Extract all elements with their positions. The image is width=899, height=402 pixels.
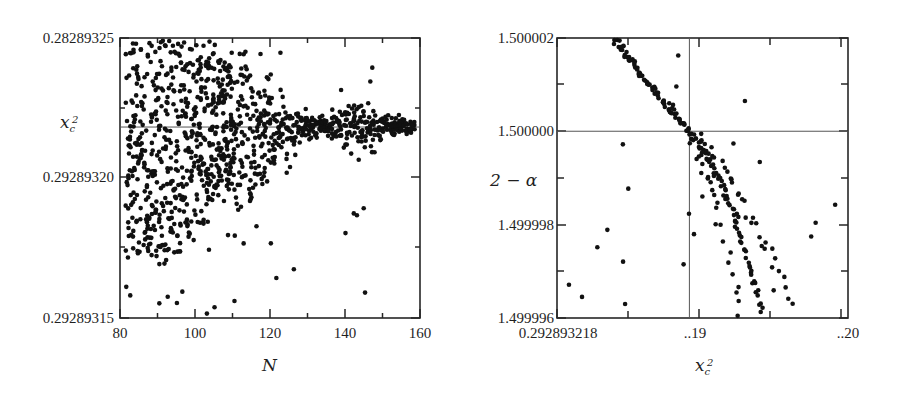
right-ytick-label-1: 1.500002 [470, 31, 554, 46]
left-ytick-label-top: 0.28289325 [18, 31, 114, 46]
left-y-axis-title-sup: 2 [72, 114, 78, 125]
left-xtick-label-80: 80 [100, 326, 140, 341]
scatter-panel-left: 0.28289325 0.29289320 0.29289315 xc2 80 … [0, 0, 449, 402]
left-plot-canvas [0, 0, 449, 402]
right-ytick-label-2: 1.500000 [470, 124, 554, 139]
left-y-axis-title: xc2 [60, 112, 78, 134]
right-xtick-label-1: 0.292893218 [498, 326, 618, 341]
right-plot-frame [557, 38, 848, 318]
right-xtick-label-2: ..19 [675, 326, 715, 341]
right-x-axis-title-base: x [695, 355, 705, 375]
right-scatter-points [567, 38, 838, 319]
left-xtick-label-160: 160 [400, 326, 440, 341]
right-y-axis-title: 2 − α [490, 170, 537, 190]
right-ytick-label-3: 1.499998 [470, 218, 554, 233]
figure-container: 0.28289325 0.29289320 0.29289315 xc2 80 … [0, 0, 899, 402]
right-x-axis-title-sup: 2 [707, 357, 713, 368]
left-scatter-points [123, 39, 416, 316]
right-plot-canvas [450, 0, 899, 402]
right-xtick-label-3: ..20 [828, 326, 868, 341]
left-y-axis-title-base: x [60, 112, 70, 132]
left-xtick-label-100: 100 [175, 326, 215, 341]
right-x-axis-title: xc2 [695, 355, 713, 377]
left-ytick-label-mid: 0.29289320 [18, 170, 114, 185]
left-x-axis-title: N [262, 355, 277, 375]
left-ytick-label-bottom: 0.29289315 [18, 311, 114, 326]
right-ytick-label-4: 1.499996 [470, 311, 554, 326]
scatter-panel-right: 1.500002 1.500000 1.499998 1.499996 2 − … [450, 0, 899, 402]
left-xtick-label-140: 140 [325, 326, 365, 341]
left-xtick-label-120: 120 [250, 326, 290, 341]
